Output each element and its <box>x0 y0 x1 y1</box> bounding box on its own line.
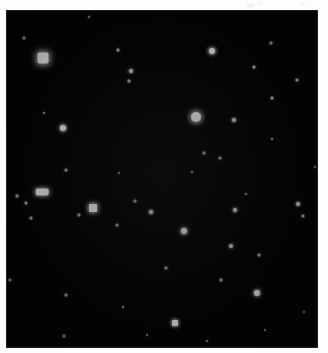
star-point <box>118 172 120 174</box>
star-point <box>245 193 247 195</box>
star-point <box>134 200 137 203</box>
sky-field-frame <box>6 10 318 348</box>
image-canvas <box>0 0 328 353</box>
star-point <box>65 169 68 172</box>
star-point <box>296 79 299 82</box>
star-point <box>25 202 28 205</box>
star-point <box>36 189 49 196</box>
star-point <box>203 152 206 155</box>
top-smudge-2 <box>258 2 263 4</box>
star-point <box>63 335 66 338</box>
top-smudge-3 <box>300 3 306 5</box>
star-point <box>16 195 19 198</box>
star-point <box>191 112 201 122</box>
star-point <box>296 202 300 206</box>
star-point <box>219 157 222 160</box>
star-point <box>314 166 316 168</box>
star-point <box>172 320 178 326</box>
star-point <box>165 267 168 270</box>
star-point <box>191 171 193 173</box>
star-point <box>65 294 68 297</box>
star-point <box>60 125 66 131</box>
star-point <box>258 254 261 257</box>
star-point <box>302 215 305 218</box>
star-point <box>43 112 45 114</box>
star-point <box>38 53 49 64</box>
star-point <box>264 329 266 331</box>
star-point <box>129 69 133 73</box>
star-point <box>220 279 223 282</box>
star-point <box>30 217 33 220</box>
star-point <box>9 279 12 282</box>
star-point <box>253 66 256 69</box>
star-point <box>116 224 119 227</box>
star-point <box>149 210 153 214</box>
star-point <box>128 80 131 83</box>
star-point <box>89 204 97 212</box>
star-point <box>146 334 148 336</box>
star-point <box>232 118 236 122</box>
star-point <box>254 290 260 296</box>
star-point <box>303 311 305 313</box>
star-point <box>206 340 208 342</box>
star-point <box>117 49 120 52</box>
star-point <box>209 48 215 54</box>
star-point <box>23 37 26 40</box>
star-point <box>271 97 274 100</box>
star-point <box>88 16 90 18</box>
top-smudge-1 <box>247 4 254 7</box>
star-point <box>78 214 81 217</box>
star-scatter-plot <box>6 10 318 348</box>
star-point <box>181 228 187 234</box>
star-point <box>122 306 124 308</box>
star-point <box>233 208 237 212</box>
star-point <box>270 42 273 45</box>
star-point <box>229 244 233 248</box>
star-point <box>271 138 273 140</box>
